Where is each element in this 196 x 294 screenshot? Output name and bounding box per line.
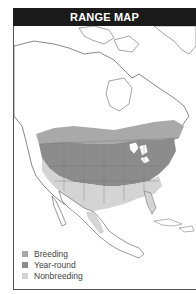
legend-item-breeding: Breeding <box>22 248 83 259</box>
nonbreeding-swatch <box>22 273 28 279</box>
legend-item-year-round: Year-round <box>22 259 83 270</box>
range-map-header: RANGE MAP <box>13 8 196 26</box>
north-america-map <box>14 26 196 266</box>
year-round-swatch <box>22 262 28 268</box>
legend-item-nonbreeding: Nonbreeding <box>22 270 83 281</box>
breeding-swatch <box>22 251 28 257</box>
map-legend: Breeding Year-round Nonbreeding <box>22 248 83 281</box>
legend-label: Year-round <box>34 260 76 270</box>
legend-label: Nonbreeding <box>34 271 83 281</box>
legend-label: Breeding <box>34 249 68 259</box>
range-map <box>14 26 196 266</box>
